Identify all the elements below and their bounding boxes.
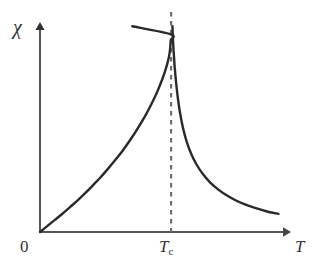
- origin-label: 0: [20, 238, 29, 255]
- critical-temperature-subscript: c: [169, 245, 174, 257]
- y-axis-label: χ: [13, 17, 22, 37]
- curve-below-tc: [40, 26, 174, 232]
- x-axis-arrowhead: [283, 227, 291, 237]
- susceptibility-vs-temperature-figure: χ 0 Tc T: [0, 0, 318, 273]
- y-axis: [35, 22, 44, 232]
- plot-canvas: [0, 0, 318, 273]
- critical-temperature-label: Tc: [159, 238, 173, 255]
- y-axis-arrowhead: [35, 22, 44, 30]
- x-axis: [40, 227, 291, 237]
- critical-temperature-symbol: T: [159, 237, 168, 256]
- curve-above-tc: [172, 26, 278, 214]
- x-axis-label: T: [295, 238, 304, 255]
